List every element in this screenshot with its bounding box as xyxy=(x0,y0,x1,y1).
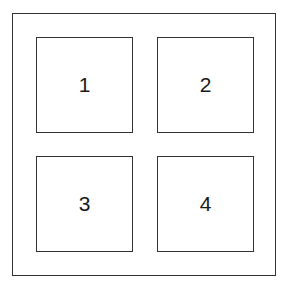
box-label: 2 xyxy=(200,73,212,97)
box-label: 1 xyxy=(79,73,91,97)
box-label: 4 xyxy=(200,192,212,216)
box-label: 3 xyxy=(79,192,91,216)
box-3: 3 xyxy=(36,156,133,252)
box-4: 4 xyxy=(157,156,254,252)
box-1: 1 xyxy=(36,37,133,133)
box-2: 2 xyxy=(157,37,254,133)
